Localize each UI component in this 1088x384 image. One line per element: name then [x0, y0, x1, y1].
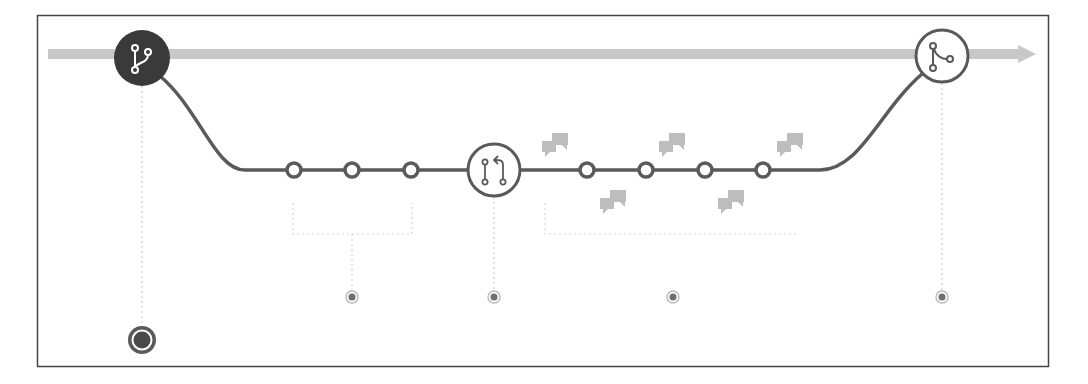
step-marker[interactable] — [488, 291, 500, 303]
commit-node[interactable] — [345, 163, 359, 177]
end-marker[interactable] — [128, 326, 156, 354]
github-flow-diagram — [0, 0, 1088, 384]
merge-node[interactable] — [916, 30, 968, 82]
step-marker[interactable] — [346, 291, 358, 303]
commit-node[interactable] — [756, 163, 770, 177]
pull-request-node[interactable] — [468, 144, 520, 196]
diagram-frame — [38, 16, 1049, 367]
create-branch-node[interactable] — [114, 30, 170, 86]
step-marker[interactable] — [936, 291, 948, 303]
commit-node[interactable] — [580, 163, 594, 177]
commit-node[interactable] — [639, 163, 653, 177]
step-marker[interactable] — [667, 291, 679, 303]
commit-node[interactable] — [287, 163, 301, 177]
commit-node[interactable] — [404, 163, 418, 177]
commit-node[interactable] — [698, 163, 712, 177]
